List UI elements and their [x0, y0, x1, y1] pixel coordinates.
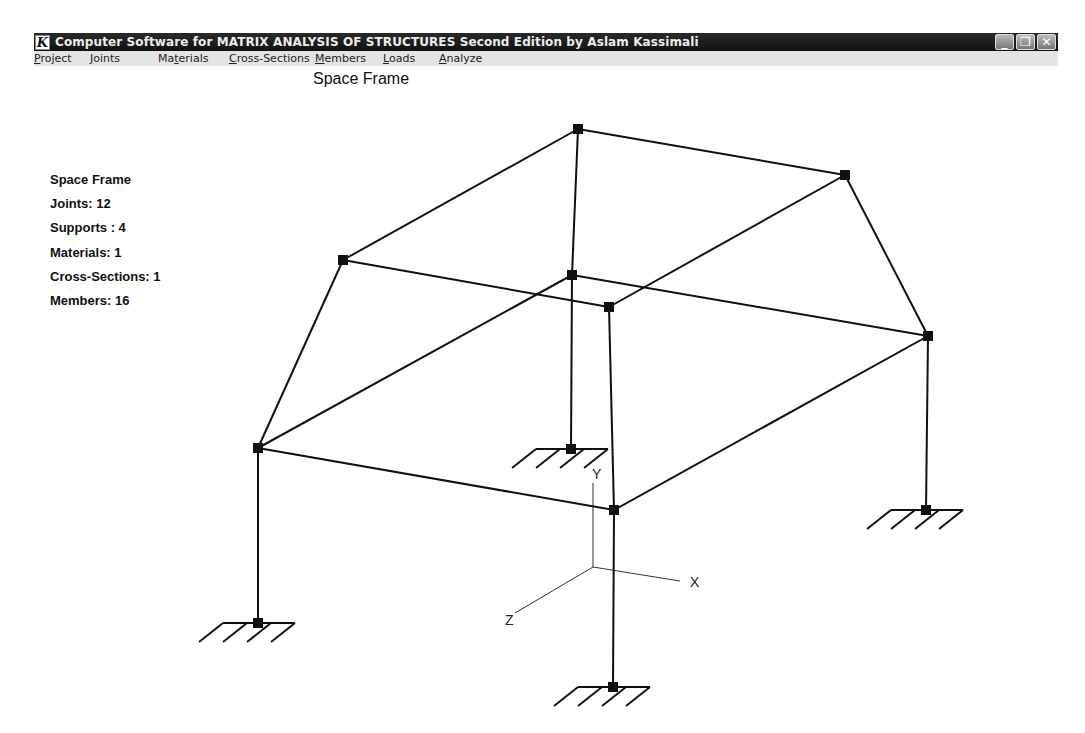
member[interactable] — [258, 275, 572, 448]
joint-node[interactable] — [567, 270, 577, 280]
joint-node[interactable] — [573, 124, 583, 134]
joint-node[interactable] — [338, 255, 348, 265]
member[interactable] — [343, 129, 578, 260]
member[interactable] — [609, 307, 614, 510]
joint-node[interactable] — [253, 618, 263, 628]
member[interactable] — [614, 336, 928, 510]
axis-label: X — [690, 574, 700, 590]
axis-label: Y — [592, 466, 602, 482]
fixed-support-icon — [199, 623, 295, 642]
joint-node[interactable] — [921, 505, 931, 515]
joint-node[interactable] — [609, 505, 619, 515]
fixed-supports — [199, 449, 963, 706]
joint-node[interactable] — [566, 444, 576, 454]
coordinate-axes: XYZ — [505, 466, 700, 628]
members — [258, 129, 928, 687]
joints — [253, 124, 933, 692]
member[interactable] — [613, 510, 614, 687]
axis-line — [593, 567, 680, 581]
member[interactable] — [572, 129, 578, 275]
joint-node[interactable] — [608, 682, 618, 692]
member[interactable] — [926, 336, 928, 510]
joint-node[interactable] — [604, 302, 614, 312]
structure-canvas[interactable]: XYZ — [0, 0, 1085, 733]
member[interactable] — [845, 175, 928, 336]
fixed-support-icon — [554, 687, 650, 706]
joint-node[interactable] — [840, 170, 850, 180]
fixed-support-icon — [867, 510, 963, 529]
member[interactable] — [571, 275, 572, 449]
joint-node[interactable] — [253, 443, 263, 453]
axis-line — [515, 567, 593, 613]
member[interactable] — [578, 129, 845, 175]
member[interactable] — [572, 275, 928, 336]
joint-node[interactable] — [923, 331, 933, 341]
member[interactable] — [343, 260, 609, 307]
member[interactable] — [258, 448, 614, 510]
axis-label: Z — [505, 612, 514, 628]
member[interactable] — [258, 260, 343, 448]
